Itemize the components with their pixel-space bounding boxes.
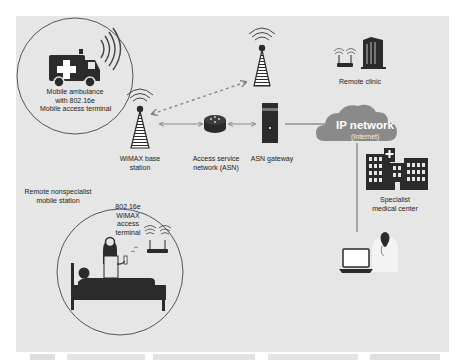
cell-tower-icon	[127, 89, 153, 148]
asn-label: Access service network (ASN)	[188, 155, 244, 172]
blurred-caption	[30, 354, 440, 360]
remote-station-inner-label-line-2: WiMAX	[108, 212, 148, 221]
link-base-to-relay	[152, 82, 246, 114]
laptop-icon	[339, 249, 373, 273]
remote-station-inner-label: 802.16e WiMAX access terminal	[108, 203, 148, 237]
wifi-router-icon	[334, 49, 356, 68]
remote-station-outer-label: Remote nonspecialist mobile station	[18, 188, 98, 205]
base-station-label-line-2: station	[115, 164, 165, 173]
hospital-icon	[366, 148, 428, 190]
specialist-center-label-line-2: medical center	[370, 205, 420, 214]
remote-station-inner-label-line-4: terminal	[108, 229, 148, 238]
ambulance-label-line-1: Mobile ambulance	[40, 88, 110, 97]
remote-station-outer-label-line-1: Remote nonspecialist	[18, 188, 98, 197]
asn-label-line-1: Access service	[188, 155, 244, 164]
ip-network-subtitle: (Internet)	[351, 133, 379, 140]
doctor-laptop-icon	[339, 232, 398, 273]
ambulance-icon	[49, 49, 100, 87]
router-icon	[204, 115, 226, 133]
ambulance-node	[17, 18, 133, 134]
specialist-center-label-line-1: Specialist	[370, 196, 420, 205]
ip-network-title: IP network	[336, 119, 394, 131]
ambulance-label-line-2: with 802.16e	[40, 97, 110, 106]
remote-clinic-label-line-1: Remote clinic	[335, 78, 385, 87]
ambulance-label: Mobile ambulance with 802.16e Mobile acc…	[40, 88, 110, 114]
network-diagram	[0, 0, 465, 364]
server-icon	[262, 103, 278, 143]
remote-clinic-label: Remote clinic	[335, 78, 385, 87]
remote-clinic	[334, 37, 386, 69]
wimax-base-station	[127, 89, 153, 148]
cell-tower-icon	[249, 28, 275, 86]
clinic-building-icon	[361, 37, 386, 69]
asn-label-line-2: network (ASN)	[188, 164, 244, 173]
specialist-center-label: Specialist medical center	[370, 196, 420, 213]
base-station-label-line-1: WiMAX base	[115, 155, 165, 164]
remote-station-inner-label-line-3: access	[108, 220, 148, 229]
wireless-signal-icon	[101, 28, 121, 70]
asn-gateway-label: ASN gateway	[250, 155, 294, 164]
patient-bed-icon	[71, 238, 166, 312]
ambulance-label-line-3: Mobile access terminal	[40, 105, 110, 114]
relay-tower	[249, 28, 275, 86]
wimax-access-terminal-icon	[144, 226, 171, 254]
asn-gateway-label-line-1: ASN gateway	[250, 155, 294, 164]
remote-station-outer-label-line-2: mobile station	[18, 197, 98, 206]
base-station-label: WiMAX base station	[115, 155, 165, 172]
remote-station-inner-label-line-1: 802.16e	[108, 203, 148, 212]
